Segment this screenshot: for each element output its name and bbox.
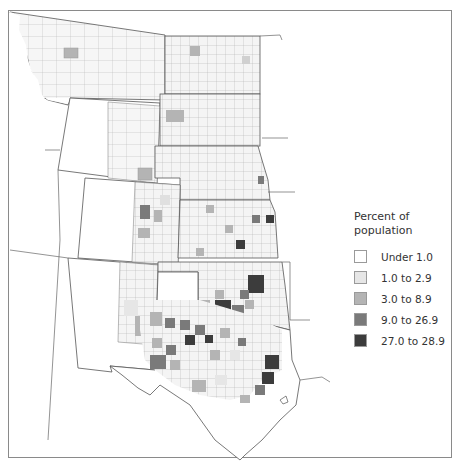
legend-swatch-under-1 (354, 250, 367, 263)
legend: Percent of population Under 1.0 1.0 to 2… (354, 210, 454, 351)
legend-label: Under 1.0 (381, 251, 433, 263)
legend-swatch-27-to-28.9 (354, 334, 367, 347)
legend-label: 9.0 to 26.9 (381, 314, 438, 326)
state-wyoming (58, 98, 160, 183)
legend-item: 9.0 to 26.9 (354, 309, 454, 330)
legend-swatch-9-to-26.9 (354, 313, 367, 326)
legend-label: 27.0 to 28.9 (381, 335, 445, 347)
state-north-dakota (165, 36, 260, 94)
legend-item: 27.0 to 28.9 (354, 330, 454, 351)
legend-item: 1.0 to 2.9 (354, 267, 454, 288)
state-colorado (78, 178, 180, 265)
legend-title: Percent of population (354, 210, 454, 238)
legend-swatch-1-to-2.9 (354, 271, 367, 284)
legend-swatch-3-to-8.9 (354, 292, 367, 305)
legend-item: 3.0 to 8.9 (354, 288, 454, 309)
state-south-dakota (160, 94, 260, 146)
legend-label: 3.0 to 8.9 (381, 293, 432, 305)
legend-label: 1.0 to 2.9 (381, 272, 432, 284)
state-montana (10, 12, 165, 105)
legend-item: Under 1.0 (354, 246, 454, 267)
state-kansas (178, 200, 278, 258)
